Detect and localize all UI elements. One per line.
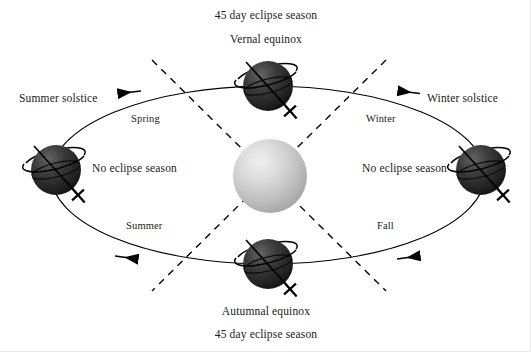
sun <box>233 139 307 213</box>
label-autumnal-equinox: Autumnal equinox <box>222 305 310 317</box>
diagram-canvas <box>0 0 531 352</box>
label-vernal-equinox: Vernal equinox <box>230 33 302 45</box>
label-no-eclipse-season-right: No eclipse season <box>362 162 447 174</box>
label-summer-solstice: Summer solstice <box>19 92 98 104</box>
eclipse-season-diagram: 45 day eclipse season Vernal equinox Sum… <box>0 0 531 352</box>
earth-autumnal-equinox <box>235 239 303 302</box>
label-summer: Summer <box>126 220 162 231</box>
label-winter: Winter <box>366 113 396 124</box>
label-spring: Spring <box>131 113 160 124</box>
earth-summer-solstice <box>23 145 91 208</box>
orbit-arrow-winter <box>399 91 420 94</box>
orbit-arrow-fall <box>397 256 419 259</box>
orbit-arrow-spring <box>119 91 141 94</box>
label-bottom-eclipse-season: 45 day eclipse season <box>215 328 317 340</box>
orbit-arrow-summer <box>115 256 137 259</box>
label-winter-solstice: Winter solstice <box>427 92 498 104</box>
earth-vernal-equinox <box>235 61 303 124</box>
label-no-eclipse-season-left: No eclipse season <box>92 162 177 174</box>
label-top-eclipse-season: 45 day eclipse season <box>215 9 317 21</box>
label-fall: Fall <box>377 220 394 231</box>
earth-winter-solstice <box>448 145 516 208</box>
